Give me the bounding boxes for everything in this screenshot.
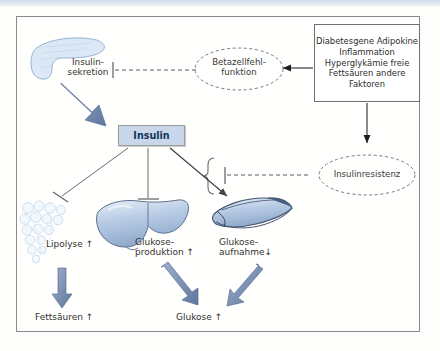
glucose-label: Glukose ↑: [176, 312, 222, 322]
insulin-label: Insulin: [133, 130, 169, 141]
insulin-node: Insulin: [118, 125, 185, 146]
top-color-band: [0, 0, 440, 6]
glucose-uptake-label: Glukose- aufnahme↓: [219, 237, 272, 257]
fatty-acids-label: Fettsäuren ↑: [35, 312, 93, 322]
risk-factors-text: Diabetesgene Adipokine Inflammation Hype…: [315, 36, 419, 91]
risk-factors-box: Diabetesgene Adipokine Inflammation Hype…: [314, 24, 420, 102]
lipolysis-label: Lipolyse ↑: [46, 239, 93, 249]
insulin-secretion-label: Insulin- sekretion: [62, 58, 114, 78]
figure-panel: Diabetesgene Adipokine Inflammation Hype…: [0, 0, 440, 351]
insulin-resistance-label: Insulinresistenz: [320, 169, 414, 179]
beta-cell-dysfunction-label: Betazellfehl- funktion: [196, 57, 282, 77]
glucose-production-label: Glukose- produktion ↑: [135, 237, 194, 257]
